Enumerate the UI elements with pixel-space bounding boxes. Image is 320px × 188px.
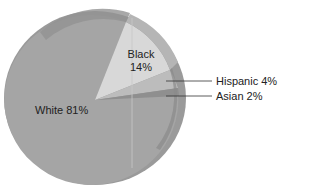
label-black-name: Black [118,48,164,61]
label-black-value: 14% [118,61,164,74]
label-asian: Asian 2% [216,90,262,103]
label-hispanic: Hispanic 4% [216,75,277,88]
label-black: Black 14% [118,48,164,74]
label-white: White 81% [35,104,88,117]
